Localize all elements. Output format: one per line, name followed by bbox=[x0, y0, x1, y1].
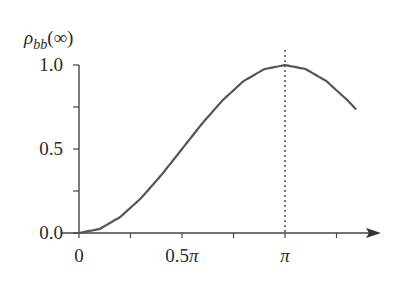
y-tick-label: 0.0 bbox=[39, 222, 63, 243]
data-line-rho-bb bbox=[79, 65, 356, 233]
x-tick-label: 0 bbox=[74, 245, 84, 266]
x-tick-labels: 00.5ππ bbox=[74, 245, 290, 266]
chart: ρbb(∞) 0.00.51.0 00.5ππ bbox=[0, 0, 400, 298]
y-tick-labels: 0.00.51.0 bbox=[39, 54, 63, 243]
x-tick-label: π bbox=[280, 245, 290, 266]
y-tick-label: 1.0 bbox=[39, 54, 63, 75]
axes bbox=[62, 65, 372, 234]
axis-ticks bbox=[73, 65, 337, 238]
y-axis-label: ρbb(∞) bbox=[23, 27, 73, 52]
y-tick-label: 0.5 bbox=[39, 138, 63, 159]
x-tick-label: 0.5π bbox=[165, 245, 199, 266]
